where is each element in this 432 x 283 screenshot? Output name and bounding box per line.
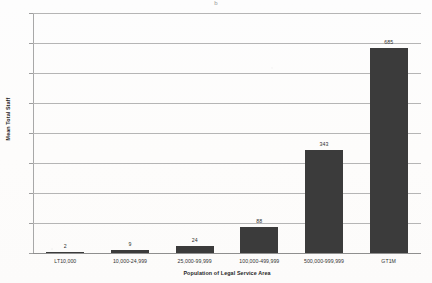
bar[interactable] xyxy=(240,227,278,253)
gridline xyxy=(33,253,421,254)
bar-slot: 2 xyxy=(33,13,98,253)
x-tick-label: 100,000-499,999 xyxy=(227,258,292,264)
bar-value-label: 685 xyxy=(384,39,393,45)
y-tick-mark xyxy=(29,43,33,44)
bar[interactable] xyxy=(305,150,343,253)
y-axis-title: Mean Total Staff xyxy=(5,74,11,164)
bar-slot: 685 xyxy=(356,13,421,253)
y-tick-mark xyxy=(29,193,33,194)
bar-slot: 343 xyxy=(292,13,357,253)
x-tick-label: 10,000-24,999 xyxy=(98,258,163,264)
bar-slot: 24 xyxy=(162,13,227,253)
scan-artifact-mark: b xyxy=(213,1,219,6)
x-tick-label: 25,000-99,999 xyxy=(162,258,227,264)
y-tick-mark xyxy=(29,103,33,104)
x-tick-label: 500,000-999,999 xyxy=(292,258,357,264)
bar[interactable] xyxy=(111,250,149,253)
y-tick-mark xyxy=(29,73,33,74)
bar-value-label: 9 xyxy=(128,241,131,247)
bars-layer: 292488343685 xyxy=(33,13,421,253)
bar-value-label: 24 xyxy=(192,237,198,243)
x-tick-label: LT10,000 xyxy=(33,258,98,264)
y-tick-mark xyxy=(29,13,33,14)
bar-chart: b Mean Total Staff 292488343685 01002003… xyxy=(0,0,432,283)
y-tick-mark xyxy=(29,223,33,224)
x-axis-title: Population of Legal Service Area xyxy=(33,270,421,276)
y-tick-mark xyxy=(29,133,33,134)
plot-area: 292488343685 0100200300400500600700800 xyxy=(33,13,421,253)
bar-value-label: 2 xyxy=(64,243,67,249)
bar-slot: 88 xyxy=(227,13,292,253)
bar[interactable] xyxy=(370,48,408,254)
x-tick-label: GT1M xyxy=(356,258,421,264)
bar[interactable] xyxy=(176,246,214,253)
y-tick-mark xyxy=(29,253,33,254)
y-tick-mark xyxy=(29,163,33,164)
bar[interactable] xyxy=(46,252,84,253)
bar-value-label: 343 xyxy=(320,141,329,147)
bar-slot: 9 xyxy=(98,13,163,253)
bar-value-label: 88 xyxy=(256,218,262,224)
